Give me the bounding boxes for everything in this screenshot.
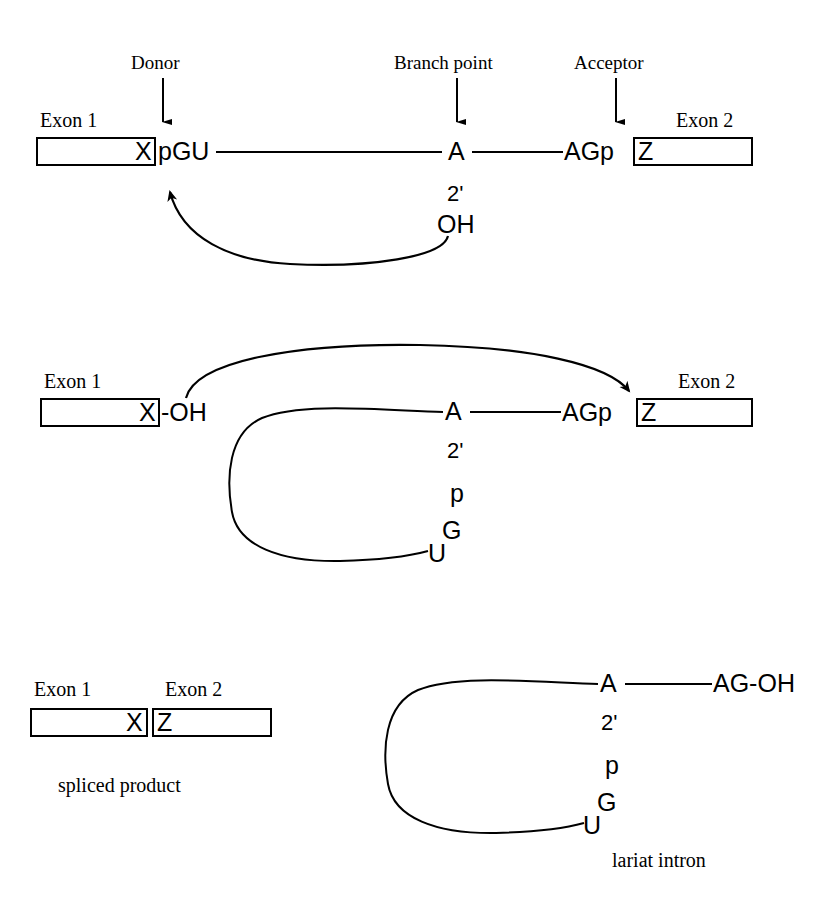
- panel2-exon2-label: Exon 2: [678, 371, 735, 391]
- branch-attack-arrow: [170, 192, 448, 265]
- panel1-branch-2prime: 2': [447, 183, 463, 205]
- panel3-branch-phosphate: p: [605, 753, 619, 778]
- panel2-exon1-letter: X: [139, 400, 156, 425]
- panel2-exon1-hydroxyl: -OH: [161, 400, 207, 425]
- panel1-branch-hydroxyl: OH: [437, 212, 475, 237]
- panel3-branch-adenosine: A: [600, 671, 617, 696]
- acceptor-label: Acceptor: [574, 53, 644, 72]
- branch-point-label: Branch point: [394, 53, 493, 72]
- panel2-branch-phosphate: p: [450, 481, 464, 506]
- panel3-exon1-label: Exon 1: [34, 679, 91, 699]
- lariat-loop-panel3: [385, 680, 598, 833]
- donor-label: Donor: [131, 53, 180, 72]
- panel3-branch-2prime: 2': [601, 712, 617, 734]
- lariat-loop-panel2: [229, 408, 443, 561]
- spliced-product-caption: spliced product: [58, 775, 181, 795]
- panel2-exon1-label: Exon 1: [44, 371, 101, 391]
- panel1-branch-adenosine: A: [448, 139, 465, 164]
- intron-3prime-end: AG-OH: [713, 671, 795, 696]
- panel3-branch-uridine: U: [583, 813, 601, 838]
- panel3-exon2-label: Exon 2: [165, 679, 222, 699]
- panel3-exon1-letter: X: [126, 710, 143, 735]
- panel1-exon2-label: Exon 2: [676, 110, 733, 130]
- lariat-intron-caption: lariat intron: [612, 850, 706, 870]
- panel2-branch-adenosine: A: [445, 399, 462, 424]
- panel1-exon1-letter: X: [135, 139, 152, 164]
- panel2-branch-uridine: U: [428, 541, 446, 566]
- panel1-exon2-letter: Z: [638, 139, 653, 164]
- panel3-exon2-letter: Z: [157, 710, 172, 735]
- panel2-exon2-letter: Z: [641, 400, 656, 425]
- diagram-lines-overlay: [0, 0, 831, 899]
- panel2-branch-2prime: 2': [447, 440, 463, 462]
- panel1-donor-site: pGU: [158, 139, 209, 164]
- splicing-diagram: Donor Branch point Acceptor Exon 1 X pGU…: [0, 0, 831, 899]
- exon1-attack-arrow: [186, 345, 629, 398]
- panel1-acceptor-site: AGp: [564, 139, 614, 164]
- panel1-exon1-label: Exon 1: [40, 110, 97, 130]
- panel2-acceptor-site: AGp: [562, 400, 612, 425]
